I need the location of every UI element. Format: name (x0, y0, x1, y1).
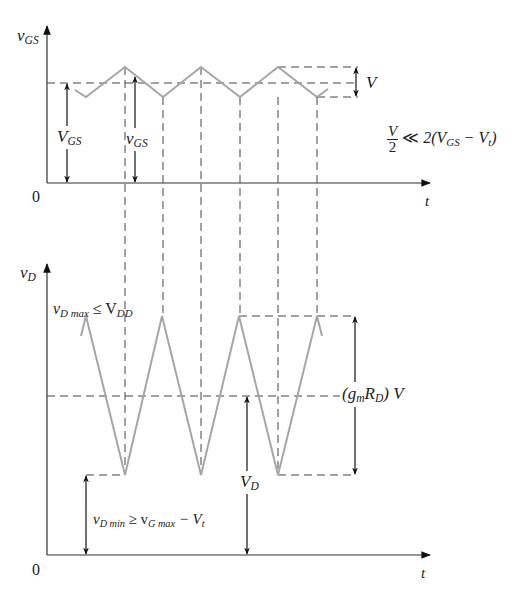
vd-amplitude-label: (gmRD) V (340, 382, 406, 407)
top-y-axis-label: vGS (17, 27, 39, 46)
waveform-diagram (0, 0, 516, 592)
vd-dc-label: VD (240, 471, 259, 494)
small-signal-condition: V2≪ 2(VGS − Vt) (387, 124, 497, 155)
vd-max-label: vD max ≤ VDD (53, 301, 133, 319)
top-dashed-lines (47, 67, 358, 475)
bottom-origin-label: 0 (32, 562, 40, 578)
top-origin-label: 0 (32, 189, 40, 205)
top-dimension-arrows (67, 68, 356, 182)
bottom-dashed-lines (47, 97, 405, 475)
bottom-x-axis-label: t (421, 566, 425, 581)
vgs-amplitude-label: V (366, 74, 376, 91)
bottom-y-axis-label: vD (20, 264, 36, 283)
top-x-axis-label: t (425, 194, 429, 209)
vd-min-label: vD min ≥ vG max − Vt (93, 512, 205, 529)
top-axes (47, 26, 430, 183)
vgs-dc-label: VGS (57, 126, 82, 149)
vgs-total-label: vGS (126, 128, 148, 151)
